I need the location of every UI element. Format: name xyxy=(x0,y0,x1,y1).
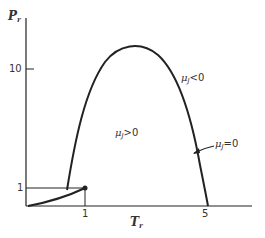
chart-canvas xyxy=(0,0,265,238)
annotation-mu-positive-text: >0 xyxy=(124,127,139,138)
annotation-mu-zero-text: =0 xyxy=(224,138,239,149)
y-axis-label-main: P xyxy=(8,9,17,23)
annotation-mu-negative: μJ<0 xyxy=(181,73,204,85)
x-axis-label: Tr xyxy=(130,216,143,229)
y-axis-label-sub: r xyxy=(17,15,21,24)
x-axis-label-sub: r xyxy=(139,221,143,230)
y-tick-label-10: 10 xyxy=(9,64,22,74)
critical-point xyxy=(83,186,88,191)
x-tick-label-1: 1 xyxy=(82,209,88,219)
x-tick-label-5: 5 xyxy=(202,209,208,219)
annotation-mu-zero: μJ=0 xyxy=(215,139,238,151)
y-tick-label-1: 1 xyxy=(17,183,23,193)
y-axis-label: Pr xyxy=(8,10,21,23)
annotation-mu-positive: μJ>0 xyxy=(115,128,138,140)
vapor-pressure-curve xyxy=(28,188,85,206)
annotation-mu-negative-text: <0 xyxy=(190,72,205,83)
x-axis-label-main: T xyxy=(130,215,139,229)
